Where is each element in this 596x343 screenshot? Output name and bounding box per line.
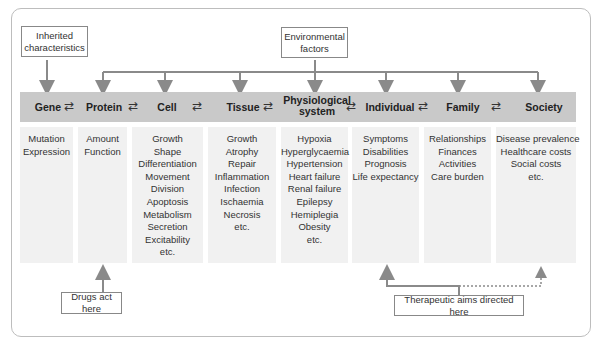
equilibrium-arrow-icon: ⇄ bbox=[346, 99, 356, 113]
level-label-gene: Gene bbox=[32, 102, 64, 113]
equilibrium-arrow-icon: ⇄ bbox=[128, 99, 138, 113]
column-tissue: Growth Atrophy Repair Inflammation Infec… bbox=[208, 127, 276, 263]
inherited-characteristics-box: Inherited characteristics bbox=[21, 26, 88, 57]
therapeutic-aims-box: Therapeutic aims directed here bbox=[394, 295, 524, 316]
level-label-family: Family bbox=[443, 102, 483, 113]
column-society: Disease prevalence Healthcare costs Soci… bbox=[496, 127, 576, 263]
level-label-individual: Individual bbox=[365, 102, 415, 113]
column-cell: Growth Shape Differentiation Movement Di… bbox=[132, 127, 203, 263]
level-label-tissue: Tissue bbox=[224, 102, 262, 113]
column-individual: Symptoms Disabilities Prognosis Life exp… bbox=[352, 127, 419, 263]
column-protein: Amount Function bbox=[78, 127, 127, 263]
equilibrium-arrow-icon: ⇄ bbox=[263, 99, 273, 113]
equilibrium-arrow-icon: ⇄ bbox=[418, 99, 428, 113]
column-gene: Mutation Expression bbox=[20, 127, 73, 263]
environmental-factors-box: Environmental factors bbox=[281, 27, 348, 58]
level-label-physiological-system: Physiological system bbox=[282, 95, 352, 117]
level-label-cell: Cell bbox=[152, 102, 182, 113]
drugs-act-here-box: Drugs act here bbox=[61, 292, 122, 314]
column-physiological-system: Hypoxia Hyperglycaemia Hypertension Hear… bbox=[281, 127, 348, 263]
level-label-society: Society bbox=[523, 102, 565, 113]
equilibrium-arrow-icon: ⇄ bbox=[491, 99, 501, 113]
column-family: Relationships Finances Activities Care b… bbox=[424, 127, 491, 263]
equilibrium-arrow-icon: ⇄ bbox=[192, 99, 202, 113]
equilibrium-arrow-icon: ⇄ bbox=[64, 99, 74, 113]
level-label-protein: Protein bbox=[84, 102, 124, 113]
